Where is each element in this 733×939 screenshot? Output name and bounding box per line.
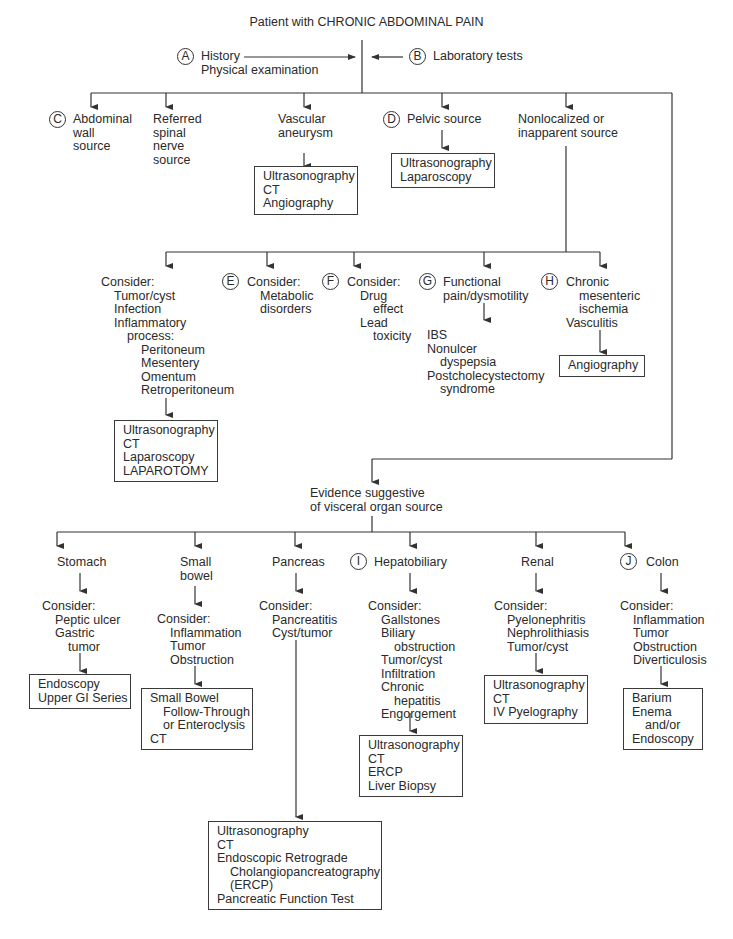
text-line: Pyelonephritis bbox=[494, 614, 589, 628]
test-item: Ultrasonography bbox=[263, 170, 349, 184]
text-line: Gallstones bbox=[368, 614, 456, 628]
test-item: CT bbox=[493, 693, 579, 707]
test-item: CT bbox=[217, 839, 373, 853]
text-line: Functional bbox=[443, 276, 528, 290]
text-line: tumor bbox=[42, 641, 120, 655]
text-line: Nephrolithiasis bbox=[494, 627, 589, 641]
text-line: Inflammation bbox=[157, 627, 242, 641]
text-line: Diverticulosis bbox=[620, 654, 707, 668]
text-line: obstruction bbox=[368, 641, 456, 655]
text-line: Small bbox=[180, 556, 213, 570]
text-line: Consider: bbox=[620, 600, 707, 614]
pelvic-tests-box: Ultrasonography Laparoscopy bbox=[391, 153, 495, 188]
text-line: Tumor/cyst bbox=[101, 290, 234, 304]
text-line: dyspepsia bbox=[427, 356, 544, 370]
text-line: Omentum bbox=[101, 371, 234, 385]
general-tests-box: Ultrasonography CT Laparoscopy LAPAROTOM… bbox=[114, 420, 218, 482]
lab-tests-label: Laboratory tests bbox=[433, 50, 523, 64]
text-line: Consider: bbox=[247, 276, 314, 290]
text-line: Consider: bbox=[368, 600, 456, 614]
small-bowel-node: Small bowel bbox=[180, 556, 213, 583]
colon-node: Colon bbox=[646, 556, 679, 570]
badge-i: I bbox=[350, 553, 367, 570]
test-item: Angiography bbox=[263, 197, 349, 211]
text-line: syndrome bbox=[427, 383, 544, 397]
text-line: Cyst/tumor bbox=[259, 627, 337, 641]
diagram-title: Patient with CHRONIC ABDOMINAL PAIN bbox=[0, 15, 733, 29]
text-line: mesenteric bbox=[566, 290, 640, 304]
test-item: Barium bbox=[632, 692, 694, 706]
text-line: wall bbox=[73, 127, 132, 141]
test-item: Laparoscopy bbox=[400, 171, 486, 185]
text-line: Consider: bbox=[259, 600, 337, 614]
badge-a: A bbox=[177, 48, 194, 65]
text-line: Retroperitoneum bbox=[101, 384, 234, 398]
badge-c: C bbox=[49, 111, 66, 128]
drug-lead-node: Consider: Drug effect Lead toxicity bbox=[347, 276, 411, 344]
ischemia-tests-box: Angiography bbox=[559, 355, 645, 377]
test-item: Small Bowel bbox=[150, 692, 244, 706]
text-line: Peritoneum bbox=[101, 344, 234, 358]
vascular-aneurysm-node: Vascular aneurysm bbox=[278, 113, 333, 140]
text-line: Chronic bbox=[566, 276, 640, 290]
test-item: IV Pyelography bbox=[493, 706, 579, 720]
history-label: History bbox=[201, 50, 318, 64]
vascular-tests-box: Ultrasonography CT Angiography bbox=[254, 166, 358, 215]
small-bowel-consider-node: Consider: Inflammation Tumor Obstruction bbox=[157, 613, 242, 667]
functional-results-node: IBS Nonulcer dyspepsia Postcholecystecto… bbox=[427, 329, 544, 397]
text-line: Pancreas bbox=[272, 556, 325, 570]
test-item: Liver Biopsy bbox=[368, 780, 454, 794]
test-item: Endoscopic Retrograde bbox=[217, 852, 373, 866]
text-line: Chronic bbox=[368, 681, 456, 695]
text-line: inapparent source bbox=[518, 127, 618, 141]
badge-h: H bbox=[541, 273, 558, 290]
pancreas-node: Pancreas bbox=[272, 556, 325, 570]
text-line: of visceral organ source bbox=[310, 501, 443, 515]
hepatobiliary-node: Hepatobiliary bbox=[374, 556, 447, 570]
text-line: Peptic ulcer bbox=[42, 614, 120, 628]
pancreas-tests-box: Ultrasonography CT Endoscopic Retrograde… bbox=[208, 821, 382, 910]
test-item: ERCP bbox=[368, 766, 454, 780]
referred-spinal-nerve-node: Referred spinal nerve source bbox=[153, 113, 202, 167]
text-line: Postcholecystectomy bbox=[427, 370, 544, 384]
metabolic-node: Consider: Metabolic disorders bbox=[247, 276, 314, 317]
test-item: CT bbox=[150, 733, 244, 747]
badge-g: G bbox=[419, 273, 436, 290]
consider-general-node: Consider: Tumor/cyst Infection Inflammat… bbox=[101, 276, 234, 398]
badge-e: E bbox=[222, 273, 239, 290]
text-line: Pelvic source bbox=[407, 113, 481, 127]
test-item: CT bbox=[263, 184, 349, 198]
text-line: Biliary bbox=[368, 627, 456, 641]
chronic-abdominal-pain-flowchart: Patient with CHRONIC ABDOMINAL PAIN A Hi… bbox=[0, 0, 733, 939]
test-item: LAPAROTOMY bbox=[123, 465, 209, 479]
colon-consider-node: Consider: Inflammation Tumor Obstruction… bbox=[620, 600, 707, 668]
pelvic-source-node: Pelvic source bbox=[407, 113, 481, 127]
history-exam-node: History Physical examination bbox=[201, 50, 318, 77]
text-line: Inflammation bbox=[620, 614, 707, 628]
test-item: CT bbox=[368, 753, 454, 767]
stomach-node: Stomach bbox=[57, 556, 106, 570]
test-item: Ultrasonography bbox=[368, 739, 454, 753]
test-item: Endoscopy bbox=[632, 733, 694, 747]
text-line: Mesentery bbox=[101, 357, 234, 371]
lab-tests-node: Laboratory tests bbox=[433, 50, 523, 64]
mesenteric-ischemia-node: Chronic mesenteric ischemia Vasculitis bbox=[566, 276, 640, 330]
text-line: Hepatobiliary bbox=[374, 556, 447, 570]
functional-pain-node: Functional pain/dysmotility bbox=[443, 276, 528, 303]
test-item: Ultrasonography bbox=[493, 679, 579, 693]
text-line: hepatitis bbox=[368, 695, 456, 709]
text-line: Obstruction bbox=[620, 641, 707, 655]
text-line: toxicity bbox=[347, 330, 411, 344]
text-line: Consider: bbox=[42, 600, 120, 614]
text-line: Consider: bbox=[347, 276, 411, 290]
colon-tests-box: Barium Enema and/or Endoscopy bbox=[623, 688, 703, 750]
text-line: Vasculitis bbox=[566, 317, 640, 331]
pancreas-consider-node: Consider: Pancreatitis Cyst/tumor bbox=[259, 600, 337, 641]
text-line: Infiltration bbox=[368, 668, 456, 682]
text-line: Nonulcer bbox=[427, 343, 544, 357]
visceral-evidence-node: Evidence suggestive of visceral organ so… bbox=[310, 487, 443, 514]
text-line: disorders bbox=[247, 303, 314, 317]
text-line: Inflammatory bbox=[101, 317, 234, 331]
stomach-tests-box: Endoscopy Upper GI Series bbox=[29, 674, 131, 709]
text-line: Tumor/cyst bbox=[494, 641, 589, 655]
